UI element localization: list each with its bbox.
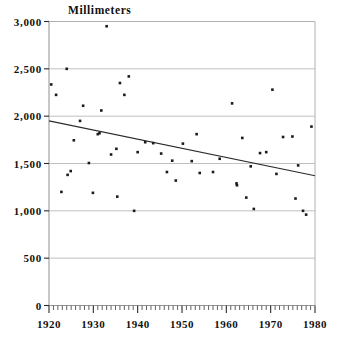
data-point bbox=[88, 162, 91, 165]
data-point bbox=[166, 171, 169, 174]
data-point bbox=[297, 164, 300, 167]
data-point bbox=[69, 170, 72, 173]
data-point bbox=[236, 184, 239, 187]
data-point bbox=[98, 132, 101, 135]
y-tick-label: 500 bbox=[23, 252, 42, 264]
data-point bbox=[310, 125, 313, 128]
data-point bbox=[144, 141, 147, 144]
data-point bbox=[182, 142, 185, 145]
data-point bbox=[174, 179, 177, 182]
y-axis-title: Millimeters bbox=[68, 4, 131, 16]
gridlines-group bbox=[49, 22, 315, 259]
data-point bbox=[105, 25, 108, 28]
trend-line-segment bbox=[49, 121, 315, 176]
data-points-group bbox=[50, 25, 313, 216]
data-point bbox=[73, 139, 76, 142]
data-point bbox=[198, 172, 201, 175]
data-point bbox=[291, 135, 294, 138]
y-tick-label: 2,500 bbox=[14, 63, 42, 75]
x-tick-label: 1920 bbox=[37, 318, 61, 330]
data-point bbox=[92, 192, 95, 195]
data-point bbox=[231, 102, 234, 105]
data-point bbox=[282, 136, 285, 139]
data-point bbox=[302, 210, 305, 213]
data-point bbox=[249, 165, 252, 168]
x-tick-label: 1970 bbox=[259, 318, 283, 330]
data-point bbox=[128, 75, 131, 78]
x-tick-label: 1930 bbox=[81, 318, 105, 330]
data-point bbox=[271, 88, 274, 91]
data-point bbox=[116, 195, 119, 198]
data-point bbox=[110, 153, 113, 156]
data-point bbox=[119, 82, 122, 85]
data-point bbox=[265, 151, 268, 154]
data-point bbox=[115, 148, 118, 151]
x-tick-label: 1940 bbox=[126, 318, 150, 330]
trend-line bbox=[49, 121, 315, 176]
data-point bbox=[79, 120, 82, 123]
data-point bbox=[212, 171, 215, 174]
data-point bbox=[133, 210, 136, 213]
data-point bbox=[66, 174, 69, 177]
x-tick-label: 1950 bbox=[170, 318, 194, 330]
data-point bbox=[275, 173, 278, 176]
y-tick-label: 3,000 bbox=[14, 16, 42, 28]
data-point bbox=[123, 94, 126, 97]
data-point bbox=[245, 196, 248, 199]
data-point bbox=[218, 157, 221, 160]
data-point bbox=[241, 137, 244, 140]
y-tick-label: 1,000 bbox=[14, 205, 42, 217]
y-tick-label: 1,500 bbox=[14, 158, 42, 170]
data-point bbox=[259, 152, 262, 155]
data-point bbox=[50, 83, 53, 86]
data-point bbox=[305, 213, 308, 216]
x-tick-label: 1960 bbox=[214, 318, 238, 330]
x-axis-tick-labels: 1920193019401950196019701980 bbox=[37, 318, 327, 330]
data-point bbox=[190, 160, 193, 163]
chart-container: 05001,0001,5002,0002,5003,000 1920193019… bbox=[0, 0, 337, 354]
data-point bbox=[160, 152, 163, 155]
y-axis-tick-labels: 05001,0001,5002,0002,5003,000 bbox=[14, 16, 49, 312]
data-point bbox=[65, 68, 68, 71]
data-point bbox=[82, 104, 85, 107]
scatter-chart: 05001,0001,5002,0002,5003,000 1920193019… bbox=[0, 0, 337, 354]
data-point bbox=[100, 109, 103, 112]
data-point bbox=[195, 133, 198, 136]
data-point bbox=[253, 208, 256, 211]
y-tick-label: 2,000 bbox=[14, 110, 42, 122]
data-point bbox=[55, 94, 58, 97]
data-point bbox=[294, 197, 297, 200]
x-axis-ticks bbox=[49, 306, 315, 314]
x-tick-label: 1980 bbox=[303, 318, 327, 330]
y-tick-label: 0 bbox=[36, 300, 42, 312]
data-point bbox=[152, 142, 155, 145]
data-point bbox=[136, 151, 139, 154]
data-point bbox=[171, 159, 174, 162]
data-point bbox=[60, 191, 63, 194]
